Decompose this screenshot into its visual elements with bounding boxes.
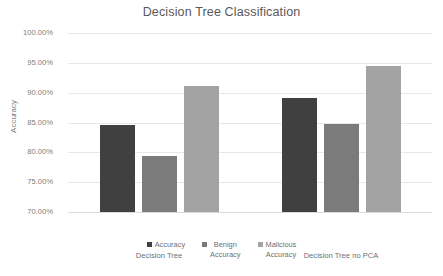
gridline xyxy=(68,63,432,64)
legend-swatch-icon xyxy=(258,242,263,247)
gridline xyxy=(68,33,432,34)
y-axis-tick-label: 90.00% xyxy=(0,88,53,97)
chart-legend: AccuracyBenign AccuracyMalicious Accurac… xyxy=(0,240,443,259)
legend-item[interactable]: Malicious Accuracy xyxy=(258,240,297,259)
bar xyxy=(366,66,401,212)
y-axis-tick-label: 75.00% xyxy=(0,177,53,186)
legend-label: Benign Accuracy xyxy=(210,240,240,259)
plot-area: 100.00%95.00%90.00%85.00%80.00%75.00%70.… xyxy=(68,33,432,212)
legend-item[interactable]: Accuracy xyxy=(147,240,185,250)
bar-chart: Decision Tree Classification Accuracy 10… xyxy=(0,0,443,276)
legend-swatch-icon xyxy=(202,242,207,247)
y-axis-tick-label: 70.00% xyxy=(0,207,53,216)
chart-title: Decision Tree Classification xyxy=(0,5,443,19)
legend-label: Accuracy xyxy=(155,240,185,250)
bar xyxy=(142,156,177,212)
y-axis-tick-label: 100.00% xyxy=(0,28,53,37)
legend-item[interactable]: Benign Accuracy xyxy=(202,240,240,259)
y-axis-tick-label: 85.00% xyxy=(0,118,53,127)
legend-label: Malicious Accuracy xyxy=(266,240,297,259)
bar xyxy=(100,125,135,212)
y-axis-tick-label: 95.00% xyxy=(0,58,53,67)
y-axis-tick-label: 80.00% xyxy=(0,147,53,156)
gridline xyxy=(68,212,432,213)
bar xyxy=(324,124,359,212)
bar xyxy=(184,86,219,212)
legend-swatch-icon xyxy=(147,242,152,247)
bar xyxy=(282,98,317,212)
